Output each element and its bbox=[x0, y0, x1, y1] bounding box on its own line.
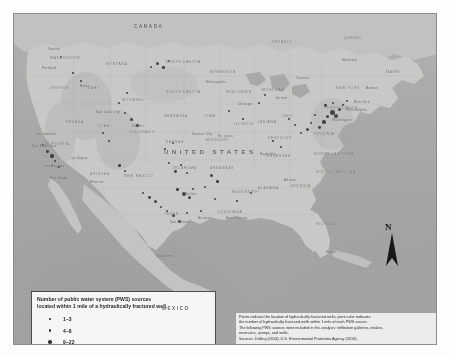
well-point bbox=[228, 110, 230, 112]
legend-title: Number of public water system (PWS) sour… bbox=[37, 296, 210, 310]
well-point bbox=[108, 140, 110, 142]
legend-entry-label: 9–22 bbox=[63, 339, 75, 345]
well-point bbox=[288, 118, 290, 120]
well-point bbox=[42, 144, 44, 146]
well-point bbox=[210, 174, 213, 177]
source-note-line-5: Sources: Drilling (2014); U.S. Environme… bbox=[239, 337, 437, 342]
well-point bbox=[250, 192, 252, 194]
well-point bbox=[162, 66, 165, 69]
legend-point-icon bbox=[48, 340, 52, 344]
well-point bbox=[264, 94, 266, 96]
legend-entry[interactable]: 4–8 bbox=[37, 325, 210, 337]
well-point bbox=[118, 102, 120, 104]
well-point bbox=[258, 102, 260, 104]
well-point bbox=[176, 188, 179, 191]
well-point bbox=[280, 146, 282, 148]
well-point bbox=[174, 170, 177, 173]
land-baja bbox=[48, 178, 82, 234]
legend-point-icon bbox=[49, 318, 51, 320]
well-point bbox=[294, 124, 296, 126]
legend-swatch-wrap bbox=[37, 329, 63, 332]
well-point bbox=[60, 56, 62, 58]
well-point bbox=[168, 60, 170, 62]
legend-swatch-wrap bbox=[37, 340, 63, 344]
well-point bbox=[130, 118, 133, 121]
map-legend[interactable]: Number of public water system (PWS) sour… bbox=[31, 291, 216, 345]
well-point bbox=[148, 196, 151, 199]
well-point bbox=[242, 118, 244, 120]
well-point bbox=[50, 154, 54, 158]
well-point bbox=[172, 142, 174, 144]
legend-entry-label: 1–3 bbox=[63, 316, 72, 322]
legend-entry-list: 1–34–89–2223–40 bbox=[37, 313, 210, 345]
well-point bbox=[118, 164, 121, 167]
well-point bbox=[338, 108, 341, 111]
well-point bbox=[272, 140, 274, 142]
well-point bbox=[236, 200, 238, 202]
land-cuba bbox=[332, 250, 372, 268]
well-point bbox=[216, 180, 219, 183]
source-note-block: Points indicate the location of hydrauli… bbox=[236, 313, 437, 344]
well-point bbox=[334, 114, 338, 118]
well-point bbox=[178, 220, 181, 223]
well-point bbox=[72, 72, 74, 74]
well-point bbox=[46, 150, 49, 153]
well-point bbox=[188, 196, 191, 199]
well-point bbox=[322, 120, 326, 124]
well-point bbox=[310, 122, 312, 124]
well-point bbox=[136, 124, 139, 127]
legend-entry-label: 4–8 bbox=[63, 328, 72, 334]
legend-entry[interactable]: 9–22 bbox=[37, 336, 210, 345]
well-point bbox=[324, 104, 327, 107]
legend-title-line-2: located within 1 mile of a hydraulically… bbox=[37, 303, 210, 310]
legend-entry[interactable]: 1–3 bbox=[37, 313, 210, 325]
well-point bbox=[80, 80, 82, 82]
well-point bbox=[186, 212, 188, 214]
legend-swatch-wrap bbox=[37, 318, 63, 320]
map-page: UNITED STATES bbox=[0, 0, 449, 356]
legend-point-icon bbox=[49, 329, 52, 332]
map-canvas[interactable]: UNITED STATES bbox=[13, 13, 437, 345]
well-point bbox=[306, 128, 309, 131]
well-point bbox=[168, 162, 170, 164]
legend-title-line-1: Number of public water system (PWS) sour… bbox=[37, 296, 210, 303]
well-point bbox=[318, 126, 321, 129]
